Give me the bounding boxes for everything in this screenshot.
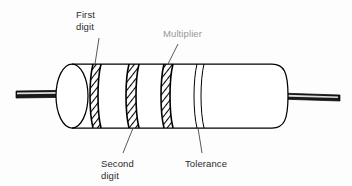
diagram-canvas: First digit Multiplier Second digit Tole… bbox=[0, 0, 352, 186]
label-multiplier: Multiplier bbox=[163, 28, 202, 39]
leader-second-digit bbox=[123, 128, 133, 153]
second-digit-label-line2: digit bbox=[101, 170, 119, 181]
resistor-body bbox=[56, 64, 288, 128]
label-second-digit: Second digit bbox=[101, 158, 134, 181]
label-tolerance: Tolerance bbox=[185, 158, 227, 169]
leader-multiplier bbox=[168, 44, 178, 64]
resistor-diagram: First digit Multiplier Second digit Tole… bbox=[0, 0, 352, 186]
label-first-digit: First digit bbox=[76, 9, 95, 32]
first-digit-label-line2: digit bbox=[76, 21, 94, 32]
first-digit-label-line1: First bbox=[76, 9, 95, 20]
leader-tolerance bbox=[198, 128, 202, 153]
tolerance-label: Tolerance bbox=[185, 158, 227, 169]
second-digit-label-line1: Second bbox=[101, 158, 134, 169]
leader-first-digit bbox=[95, 38, 99, 64]
multiplier-label: Multiplier bbox=[163, 28, 202, 39]
